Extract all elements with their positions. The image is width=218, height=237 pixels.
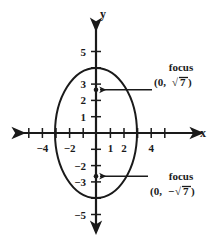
focus-point-upper [94, 88, 99, 93]
focus-upper-coords: (0, √ 7 ) [154, 76, 192, 89]
y-tick-label--2: −2 [74, 160, 86, 172]
x-tick-label-2: 2 [121, 142, 127, 154]
focus-upper-coords-open: (0, [154, 76, 166, 89]
focus-lower-coords-close: ) [191, 185, 195, 198]
y-tick-label-1: 1 [81, 111, 87, 123]
focus-upper-radical-sign: √ [172, 76, 179, 88]
focus-lower-radical-sign: √ [175, 185, 182, 197]
x-tick-label--2: −2 [64, 142, 76, 154]
focus-lower-coords: (0, − √ 7 ) [150, 185, 195, 198]
focus-lower-label: focus [169, 170, 194, 182]
x-axis-label: x [200, 126, 206, 140]
focus-lower-radicand: 7 [183, 185, 189, 197]
y-tick-label--3: −3 [74, 176, 86, 188]
y-tick-label-5: 5 [81, 46, 87, 58]
ellipse-foci-figure: −4 −2 1 2 4 5 3 2 1 −2 −3 −5 y x focus (… [0, 0, 218, 237]
focus-point-lower [94, 174, 99, 179]
focus-upper-coords-close: ) [188, 76, 192, 89]
y-axis-label: y [100, 7, 106, 21]
focus-lower-coords-open: (0, [150, 185, 162, 198]
x-tick-label--4: −4 [37, 142, 49, 154]
focus-upper-radicand: 7 [180, 76, 186, 88]
y-tick-label--5: −5 [74, 209, 86, 221]
y-tick-label-3: 3 [81, 78, 87, 90]
x-tick-label-1: 1 [108, 142, 114, 154]
x-tick-label-4: 4 [148, 142, 154, 154]
y-tick-label-2: 2 [81, 94, 87, 106]
focus-lower-minus-sign: − [168, 185, 174, 197]
coordinate-plane-plot: −4 −2 1 2 4 5 3 2 1 −2 −3 −5 y x focus (… [0, 0, 218, 237]
focus-upper-label: focus [169, 61, 194, 73]
